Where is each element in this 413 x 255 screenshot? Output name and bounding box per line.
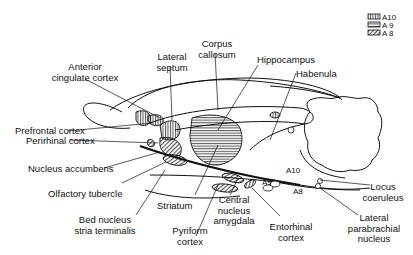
label-lateral-parabrachial-nucleus: Lateral parabrachial nucleus: [344, 213, 404, 245]
label-hippocampus: Hippocampus: [257, 55, 315, 66]
legend-swatch-a10: [368, 14, 380, 19]
label-perirhinal-cortex: Perirhinal cortex: [26, 136, 95, 147]
legend-label-a8: A 8: [382, 29, 394, 38]
label-habenula: Habenula: [296, 69, 337, 80]
label-entorhinal-cortex: Entorhinal cortex: [266, 222, 316, 243]
dopamine-pathways-diagram: A10 A 9 A 8 Anterior cingulate cortex La…: [0, 0, 413, 255]
label-a8-cell-group: A8: [293, 187, 303, 198]
label-locus-coeruleus: Locus coeruleus: [360, 182, 406, 203]
label-a9-cell-group: A9: [262, 178, 272, 189]
label-anterior-cingulate-cortex: Anterior cingulate cortex: [30, 62, 140, 83]
label-striatum: Striatum: [157, 201, 192, 212]
label-bed-nucleus-stria-terminalis: Bed nucleus stria terminalis: [70, 215, 140, 236]
label-corpus-callosum: Corpus callosum: [192, 39, 242, 60]
label-central-nucleus-amygdala: Central nucleus amygdala: [212, 195, 256, 227]
legend-swatch-a9: [368, 22, 380, 27]
label-lateral-septum: Lateral septum: [150, 52, 194, 73]
label-olfactory-tubercle: Olfactory tubercle: [48, 189, 122, 200]
label-pyriform-cortex: Pyriform cortex: [170, 226, 210, 247]
legend-swatch-a8: [368, 30, 380, 35]
label-a10-cell-group: A10: [286, 166, 300, 177]
label-nucleus-accumbens: Nucleus accumbens: [28, 164, 114, 175]
